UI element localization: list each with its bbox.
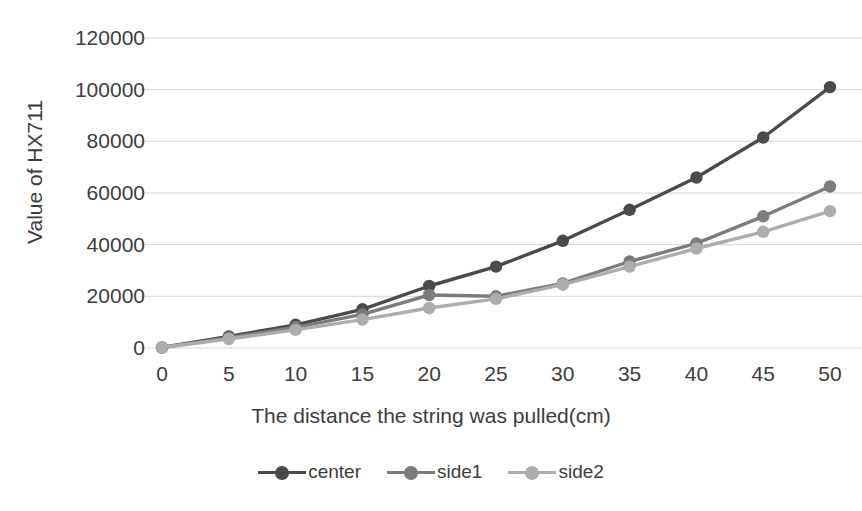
data-point-side2 [623, 260, 635, 272]
legend-item-side1[interactable]: side1 [387, 462, 482, 481]
data-point-center [690, 171, 702, 183]
x-tick-label: 15 [351, 362, 374, 386]
data-point-side2 [423, 302, 435, 314]
data-point-center [557, 235, 569, 247]
x-tick-label: 10 [284, 362, 307, 386]
data-point-side2 [490, 293, 502, 305]
x-tick-label: 45 [752, 362, 775, 386]
legend-label-center: center [308, 462, 361, 481]
data-point-side2 [289, 324, 301, 336]
series-layer [156, 81, 836, 354]
x-tick-label: 50 [818, 362, 841, 386]
data-point-side1 [757, 210, 769, 222]
x-tick-label: 35 [618, 362, 641, 386]
x-tick-label: 25 [484, 362, 507, 386]
data-point-side2 [223, 333, 235, 345]
y-tick-label: 0 [5, 336, 145, 360]
legend-label-side2: side2 [558, 462, 603, 481]
legend-swatch-center [258, 465, 306, 479]
x-tick-label: 40 [685, 362, 708, 386]
data-point-side2 [824, 205, 836, 217]
data-point-side2 [156, 341, 168, 353]
legend-swatch-side2 [508, 465, 556, 479]
data-point-side2 [757, 226, 769, 238]
data-point-side2 [356, 313, 368, 325]
legend-item-center[interactable]: center [258, 462, 361, 481]
data-point-center [623, 204, 635, 216]
data-point-side1 [824, 180, 836, 192]
chart-legend: center side1 side2 [0, 462, 862, 481]
data-point-side2 [557, 279, 569, 291]
y-axis-title: Value of HX711 [23, 42, 47, 302]
series-line-center [162, 87, 830, 347]
chart-container: 020000400006000080000100000120000 051015… [0, 0, 862, 511]
legend-swatch-side1 [387, 465, 435, 479]
legend-label-side1: side1 [437, 462, 482, 481]
x-tick-label: 20 [418, 362, 441, 386]
data-point-side1 [423, 289, 435, 301]
data-point-center [824, 81, 836, 93]
data-point-center [490, 260, 502, 272]
x-axis-title: The distance the string was pulled(cm) [0, 404, 862, 428]
x-tick-label: 30 [551, 362, 574, 386]
data-point-side2 [690, 242, 702, 254]
x-tick-label: 5 [223, 362, 235, 386]
x-tick-label: 0 [156, 362, 168, 386]
legend-item-side2[interactable]: side2 [508, 462, 603, 481]
data-point-center [757, 131, 769, 143]
